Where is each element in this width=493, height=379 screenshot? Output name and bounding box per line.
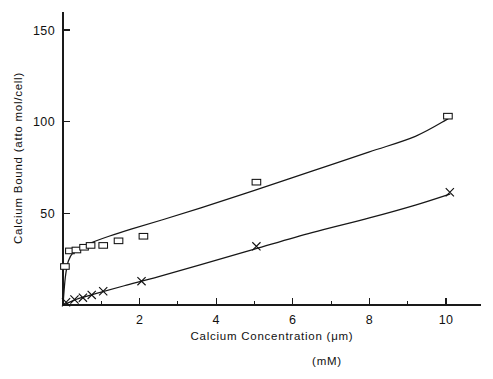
chart-figure: 50100150 246810 Calcium Bound (atto mol/… xyxy=(0,0,493,379)
square-marker-0-4 xyxy=(86,243,95,249)
data-markers-group xyxy=(61,113,454,306)
x-axis-title-secondary-unit: (mM) xyxy=(312,355,342,367)
x-tick-label-10: 10 xyxy=(439,313,454,327)
square-marker-0-5 xyxy=(99,243,108,249)
fitted-curves-group xyxy=(63,119,450,305)
square-marker-0-6 xyxy=(114,238,123,244)
x-tick-label-6: 6 xyxy=(289,313,296,327)
x-axis-tick-labels: 246810 xyxy=(136,313,453,327)
fit-curve-series-1 xyxy=(63,194,450,305)
y-tick-label-150: 150 xyxy=(33,24,55,38)
square-marker-0-9 xyxy=(444,113,453,119)
x-tick-label-8: 8 xyxy=(366,313,373,327)
series-1-markers xyxy=(62,188,454,306)
x-marker-1-7 xyxy=(446,188,454,196)
square-marker-0-8 xyxy=(252,179,261,185)
y-tick-label-100: 100 xyxy=(33,115,55,129)
y-axis-ticks xyxy=(63,30,70,213)
x-tick-label-4: 4 xyxy=(213,313,220,327)
y-axis-title: Calcium Bound (atto mol/cell) xyxy=(12,72,24,244)
calcium-binding-scatter-plot: 50100150 246810 Calcium Bound (atto mol/… xyxy=(0,0,493,379)
y-axis-tick-labels: 50100150 xyxy=(33,24,55,221)
square-marker-0-7 xyxy=(139,233,148,239)
x-axis-ticks xyxy=(101,298,446,305)
square-marker-0-0 xyxy=(61,264,70,270)
x-tick-label-2: 2 xyxy=(136,313,143,327)
x-marker-1-6 xyxy=(252,242,260,250)
axes-group xyxy=(63,12,481,305)
x-axis-title: Calcium Concentration (μm) xyxy=(191,330,354,342)
x-marker-1-5 xyxy=(137,277,145,285)
y-tick-label-50: 50 xyxy=(40,207,55,221)
